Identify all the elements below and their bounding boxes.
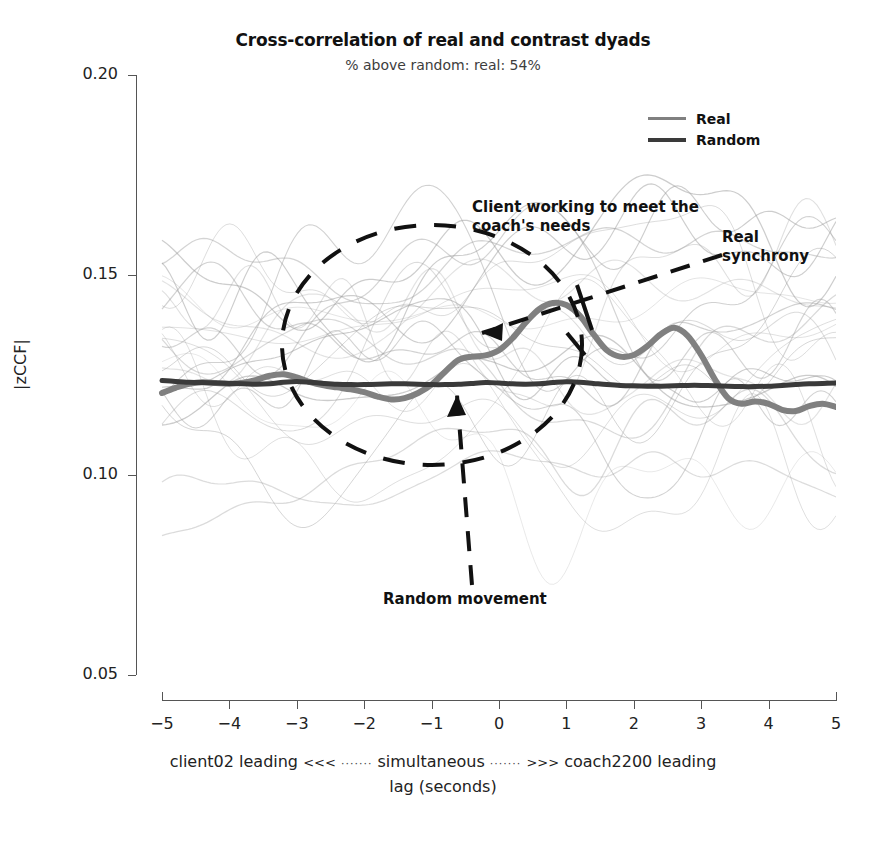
x-axis-tick-label: 2 bbox=[614, 714, 654, 733]
x-axis-tick bbox=[297, 701, 298, 709]
legend-item: Real bbox=[648, 108, 760, 129]
legend-item: Random bbox=[648, 129, 760, 150]
x-axis-tick-label: 0 bbox=[479, 714, 519, 733]
series-lines bbox=[162, 303, 836, 412]
legend-swatch bbox=[648, 117, 686, 120]
x-axis-tick bbox=[432, 701, 433, 709]
y-axis-tick bbox=[128, 675, 136, 676]
x-axis-dots-left: ······· bbox=[341, 757, 372, 770]
legend-swatch bbox=[648, 138, 686, 142]
leader-line-random-movement bbox=[457, 395, 472, 585]
y-axis-tick bbox=[128, 275, 136, 276]
x-axis-tick bbox=[634, 701, 635, 709]
x-axis-tick-label: 1 bbox=[546, 714, 586, 733]
x-axis-arrow-right: >>> bbox=[526, 755, 559, 770]
x-axis-left-label: client02 leading bbox=[170, 752, 298, 771]
leader-line-real-synchrony bbox=[482, 255, 722, 333]
y-axis-tick-label: 0.15 bbox=[48, 264, 118, 283]
annotation-client-working: Client working to meet the coach's needs bbox=[472, 198, 722, 236]
series-line-real bbox=[162, 303, 836, 412]
contrast-dyad-trace bbox=[162, 276, 836, 329]
x-axis-tick-label: 5 bbox=[816, 714, 856, 733]
x-axis-center-label: simultaneous bbox=[377, 752, 484, 771]
y-axis-tick-label: 0.10 bbox=[48, 464, 118, 483]
contrast-dyad-trace bbox=[162, 275, 836, 372]
x-axis-tick-label: −1 bbox=[412, 714, 452, 733]
x-axis-tick-label: −5 bbox=[142, 714, 182, 733]
chart-subtitle: % above random: real: 54% bbox=[0, 57, 886, 73]
series-line-random bbox=[162, 381, 836, 387]
chart-title: Cross-correlation of real and contrast d… bbox=[0, 30, 886, 50]
x-axis-tick bbox=[364, 701, 365, 709]
y-axis-spine bbox=[136, 75, 137, 675]
chart-figure: Cross-correlation of real and contrast d… bbox=[0, 0, 886, 845]
x-axis-description: client02 leading <<< ······· simultaneou… bbox=[0, 752, 886, 771]
x-axis-tick bbox=[769, 701, 770, 709]
y-axis-title: |zCCF| bbox=[11, 305, 30, 425]
contrast-dyad-trace bbox=[162, 279, 836, 502]
contrast-dyad-trace bbox=[162, 451, 836, 506]
y-axis-tick bbox=[128, 75, 136, 76]
x-axis-title: lag (seconds) bbox=[0, 777, 886, 796]
legend: RealRandom bbox=[648, 108, 760, 150]
x-axis-tick bbox=[566, 701, 567, 709]
annotation-random-movement: Random movement bbox=[383, 590, 613, 609]
x-axis-tick-label: 3 bbox=[681, 714, 721, 733]
legend-label: Random bbox=[696, 132, 760, 148]
annotation-real-synchrony: Real synchrony bbox=[722, 228, 842, 266]
highlight-ellipse bbox=[282, 225, 582, 465]
x-axis-tick bbox=[836, 692, 837, 701]
x-axis-tick bbox=[229, 701, 230, 709]
x-axis-tick-label: −3 bbox=[277, 714, 317, 733]
x-axis-arrow-left: <<< bbox=[303, 755, 336, 770]
x-axis-tick-label: −2 bbox=[344, 714, 384, 733]
arrowhead-real-synchrony bbox=[482, 323, 503, 341]
legend-label: Real bbox=[696, 111, 731, 127]
x-axis-tick bbox=[701, 701, 702, 709]
x-axis-dots-right: ······· bbox=[490, 757, 521, 770]
x-axis-tick bbox=[162, 692, 163, 701]
x-axis-tick bbox=[499, 701, 500, 709]
x-axis-right-label: coach2200 leading bbox=[564, 752, 716, 771]
contrast-dyad-trace bbox=[162, 295, 836, 438]
x-axis-tick-label: −4 bbox=[209, 714, 249, 733]
y-axis-tick-label: 0.05 bbox=[48, 664, 118, 683]
y-axis-tick bbox=[128, 475, 136, 476]
y-axis-tick-label: 0.20 bbox=[48, 64, 118, 83]
x-axis-tick-label: 4 bbox=[749, 714, 789, 733]
